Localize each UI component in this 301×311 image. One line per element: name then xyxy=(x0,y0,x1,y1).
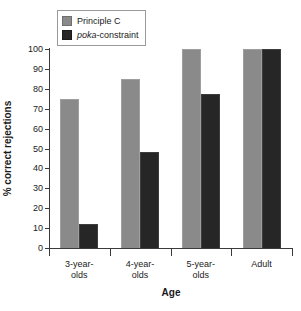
bar-principle-c xyxy=(121,79,140,248)
legend-item-poka-constraint: poka-constraint xyxy=(62,28,139,42)
y-axis-tick xyxy=(45,208,49,209)
y-axis-tick xyxy=(45,188,49,189)
bar-poka-constraint xyxy=(140,152,159,248)
legend-item-principle-c: Principle C xyxy=(62,14,139,28)
x-axis-label-line: 5-year- xyxy=(171,259,232,270)
x-axis-category-label: 3-year-olds xyxy=(49,259,110,281)
y-axis-tick-label: 40 xyxy=(33,163,43,173)
x-axis-category-label: Adult xyxy=(231,259,292,270)
x-axis-tick xyxy=(171,249,172,256)
chart-figure: Principle C poka-constraint % correct re… xyxy=(0,0,301,311)
x-axis-label-line: Adult xyxy=(231,259,292,270)
y-axis-tick xyxy=(45,149,49,150)
y-axis-tick-label: 30 xyxy=(33,183,43,193)
y-axis-tick xyxy=(45,228,49,229)
x-axis-tick xyxy=(231,249,232,256)
x-axis-label-line: olds xyxy=(110,270,171,281)
bar-poka-constraint xyxy=(79,224,98,248)
legend-label-principle-c: Principle C xyxy=(77,16,121,27)
x-axis-tick xyxy=(49,249,50,256)
y-axis-tick xyxy=(45,109,49,110)
y-axis-tick-label: 70 xyxy=(33,104,43,114)
bar-poka-constraint xyxy=(201,94,220,248)
legend-label-poka-italic: poka xyxy=(77,30,97,40)
x-axis-category-label: 4-year-olds xyxy=(110,259,171,281)
bar-principle-c xyxy=(182,49,201,248)
y-axis-tick-label: 90 xyxy=(33,64,43,74)
legend-swatch-poka-constraint xyxy=(62,30,72,40)
legend-label-poka-rest: -constraint xyxy=(97,30,139,40)
x-axis-label-line: 4-year- xyxy=(110,259,171,270)
y-axis-tick xyxy=(45,89,49,90)
bar-principle-c xyxy=(243,49,262,248)
x-axis-label-line: olds xyxy=(171,270,232,281)
y-axis-tick xyxy=(45,69,49,70)
legend-swatch-principle-c xyxy=(62,16,72,26)
plot-area: 0102030405060708090100 xyxy=(49,49,292,248)
y-axis-tick-label: 20 xyxy=(33,203,43,213)
y-axis-title: % correct rejections xyxy=(0,49,16,248)
x-axis-title: Age xyxy=(49,287,293,298)
chart-legend: Principle C poka-constraint xyxy=(57,10,146,46)
y-axis-tick-label: 0 xyxy=(38,243,43,253)
y-axis-tick xyxy=(45,49,49,50)
x-axis-category-label: 5-year-olds xyxy=(171,259,232,281)
legend-label-poka-constraint: poka-constraint xyxy=(77,30,139,41)
y-axis-tick-label: 10 xyxy=(33,223,43,233)
x-axis-tick xyxy=(292,249,293,256)
bar-poka-constraint xyxy=(262,49,281,248)
y-axis-tick-label: 100 xyxy=(28,44,43,54)
x-axis-label-line: 3-year- xyxy=(49,259,110,270)
y-axis-tick-label: 50 xyxy=(33,144,43,154)
y-axis-title-text: % correct rejections xyxy=(3,101,14,197)
x-axis-tick xyxy=(110,249,111,256)
y-axis-tick xyxy=(45,129,49,130)
y-axis-tick-label: 80 xyxy=(33,84,43,94)
y-axis-tick xyxy=(45,168,49,169)
y-axis-tick-label: 60 xyxy=(33,124,43,134)
bar-principle-c xyxy=(60,99,79,248)
x-axis-label-line: olds xyxy=(49,270,110,281)
